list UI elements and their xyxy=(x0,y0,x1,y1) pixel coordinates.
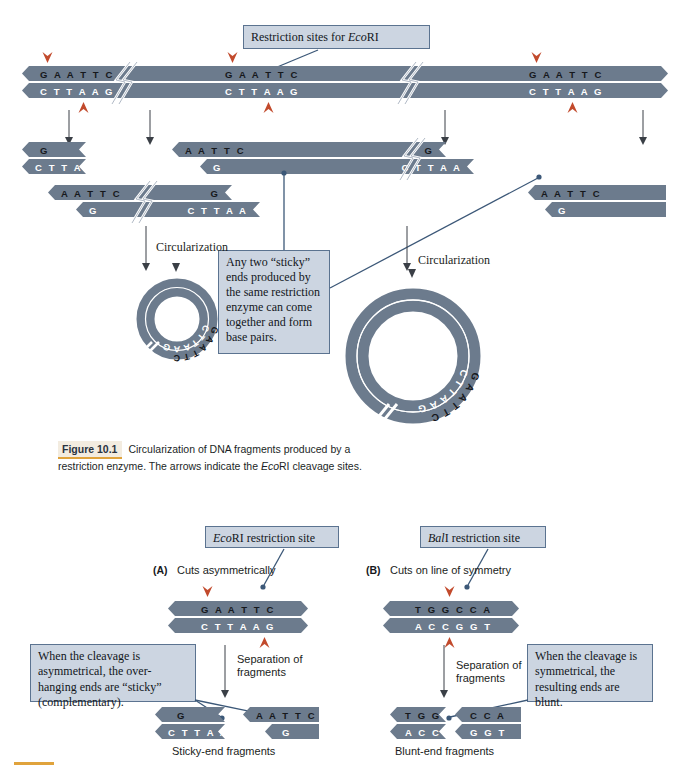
panel-a-fragment-right-bottom-seq: G xyxy=(282,726,292,737)
full-duplex-top-strand: G A A T T C G A A T T C G A A T T C xyxy=(22,66,668,81)
fragment-middle-long-bottom: G C T T A A xyxy=(200,159,474,174)
figure-canvas: Restriction sites for EcoRI G A A T T C … xyxy=(0,0,684,769)
plasmid-large: GAATTC CTTAAG xyxy=(333,276,493,466)
panel-a-fragment-left: G C T T A A xyxy=(155,707,225,739)
full-duplex-bottom-strand: C T T A A G C T T A A G C T T A A G xyxy=(22,83,668,98)
panel-b-duplex-bottom-seq: A C C G G T xyxy=(415,620,492,631)
circularization-label-left: Circularization xyxy=(156,240,228,255)
flow-arrow-4 xyxy=(636,110,650,146)
panel-a-tag: (A) xyxy=(153,564,168,576)
panel-b-cleavage-arrow-down xyxy=(443,585,456,598)
panel-b-duplex-top: T G G C C A xyxy=(383,601,519,616)
panel-a-duplex-top-seq: G A A T T C xyxy=(201,603,275,614)
panel-b-duplex-top-seq: T G G C C A xyxy=(415,603,492,614)
fragment-row2-right-bottom-seq: G xyxy=(558,204,568,215)
callout-bali-site-rest: I restriction site xyxy=(445,531,520,545)
panel-b-separation-arrow xyxy=(437,645,451,699)
callout-ecori-site: EcoRI restriction site xyxy=(205,526,339,548)
panel-a-duplex-bottom: C T T A A G xyxy=(168,618,308,633)
figure-number: Figure 10.1 xyxy=(58,441,122,459)
callout-restriction-sites: Restriction sites for EcoRI xyxy=(243,25,430,49)
figure-caption-line2b: RI cleavage sites. xyxy=(279,460,362,472)
callout-sticky-ends-text: Any two “sticky” ends produced by the sa… xyxy=(226,255,320,344)
fragment-left-small-bottom-seq: C T T A A xyxy=(35,161,96,172)
circularization-label-right: Circularization xyxy=(418,253,490,268)
figure-caption-line2a: restriction enzyme. The arrows indicate … xyxy=(58,460,261,472)
fragment-row2-right: A A T T C xyxy=(528,185,666,202)
panel-a-fragment-left-bottom-seq: C T T A A xyxy=(168,726,229,737)
callout-symmetrical-cleavage: When the cleavage is symmetrical, the re… xyxy=(527,644,653,702)
panel-a-cleavage-arrow-up xyxy=(258,636,271,649)
cleavage-arrow-up-3 xyxy=(566,101,579,114)
figure-caption-line1: Circularization of DNA fragments produce… xyxy=(128,443,350,455)
panel-b-fragment-right-bottom: G G T xyxy=(455,724,521,739)
fragment-left-small: G C T T A A xyxy=(22,142,86,174)
panel-a-separation-label-1: Separation of xyxy=(237,653,302,665)
panel-b-fragment-left-bottom: A C C xyxy=(390,724,446,739)
cleavage-arrow-down-3 xyxy=(530,51,543,64)
fragment-middle-long-bottom-seq-right: C T T A A xyxy=(401,161,462,172)
fragment-middle-long-lower: G C T T A A xyxy=(200,159,474,174)
full-duplex: G A A T T C G A A T T C G A A T T C C T … xyxy=(22,66,668,98)
figure-caption-italic: Eco xyxy=(261,460,279,472)
plasmid-small: GAATTC CTTAAG xyxy=(128,270,226,368)
fragment-row2-left-top-seq-right: G xyxy=(211,187,221,198)
fragment-row2-right-lower: G xyxy=(545,202,666,217)
panel-a-fragment-right-bottom: G xyxy=(265,724,319,739)
sequence-top-1: G A A T T C xyxy=(40,68,114,79)
callout-bali-site-italic: Bal xyxy=(428,531,445,545)
flow-arrow-2 xyxy=(143,110,157,146)
flow-arrow-1 xyxy=(62,110,76,146)
panel-a-fragment-right-top: A A T T C xyxy=(243,707,319,722)
bottom-accent-rule xyxy=(14,762,54,765)
fragment-row2-left-bottom-seq-left: G xyxy=(89,204,99,215)
figure-caption: Figure 10.1Circularization of DNA fragme… xyxy=(58,441,388,474)
panel-b-fragment-right-top: C C A xyxy=(455,707,521,722)
panel-a-fragment-right-top-seq: A A T T C xyxy=(256,709,317,720)
panel-a-fragment-left-bottom: C T T A A xyxy=(155,724,225,739)
fragment-row2-left-bottom-seq-right: C T T A A xyxy=(187,204,248,215)
panel-a-duplex: G A A T T C C T T A A G xyxy=(168,601,308,633)
panel-b-heading: Cuts on line of symmetry xyxy=(390,564,511,576)
panel-b-tag: (B) xyxy=(366,564,381,576)
callout-ecori-site-italic: Eco xyxy=(213,531,232,545)
fragment-left-small-top-seq: G xyxy=(40,144,50,155)
callout-ecori-site-rest: RI restriction site xyxy=(232,531,315,545)
panel-b-fragment-left-top: T G G xyxy=(390,707,446,722)
panel-b-duplex-bottom: A C C G G T xyxy=(383,618,519,633)
fragment-row2-left-bottom-strand: G C T T A A xyxy=(76,202,260,217)
fragment-left-small-top: G xyxy=(22,142,86,157)
callout-restriction-sites-before: Restriction sites for xyxy=(251,30,348,44)
panel-a-duplex-bottom-seq: C T T A A G xyxy=(201,620,275,631)
cleavage-arrow-up-2 xyxy=(262,101,275,114)
panel-a-fragment-left-top: G xyxy=(155,707,225,722)
panel-a-separation-label-2: fragments xyxy=(237,666,286,678)
panel-a-heading: Cuts asymmetrically xyxy=(177,564,275,576)
panel-b-cleavage-arrow-up xyxy=(443,636,456,649)
fragment-middle-long-top-seq-right: G xyxy=(425,144,435,155)
cleavage-arrow-down-1 xyxy=(41,51,54,64)
panel-a-fragment-caption: Sticky-end fragments xyxy=(172,745,275,757)
panel-b-fragment-caption: Blunt-end fragments xyxy=(395,745,494,757)
panel-b-separation-label-1: Separation of xyxy=(456,659,521,671)
flow-arrow-3 xyxy=(438,110,452,146)
panel-a-fragment-right-lower: G xyxy=(265,724,319,739)
cleavage-arrow-up-1 xyxy=(77,101,90,114)
panel-a-duplex-top: G A A T T C xyxy=(168,601,308,616)
panel-a-separation-arrow xyxy=(218,645,232,699)
cleavage-arrow-down-2 xyxy=(226,51,239,64)
fragment-row2-left-bottom: G C T T A A xyxy=(76,202,260,217)
fragment-middle-long-top-seq-left: A A T T C xyxy=(185,144,246,155)
panel-b-fragment-left: T G G A C C xyxy=(390,707,446,739)
callout-asymmetrical-cleavage-text: When the cleavage is asymmetrical, the o… xyxy=(38,649,162,709)
fragment-row2-right-top: A A T T C xyxy=(528,185,666,200)
fragment-row2-right-top-seq: A A T T C xyxy=(541,187,602,198)
panel-b-fragment-right-top-seq: C C A xyxy=(470,709,506,720)
fragment-middle-long: A A T T C G xyxy=(172,142,446,159)
leader-sticky-up xyxy=(276,168,292,252)
callout-restriction-sites-after: RI xyxy=(367,30,379,44)
panel-a-cleavage-arrow-down xyxy=(201,585,214,598)
panel-b-separation-label-2: fragments xyxy=(456,672,505,684)
sequence-bottom-1: C T T A A G xyxy=(40,85,114,96)
panel-b-fragment-right-bottom-seq: G G T xyxy=(470,726,506,737)
